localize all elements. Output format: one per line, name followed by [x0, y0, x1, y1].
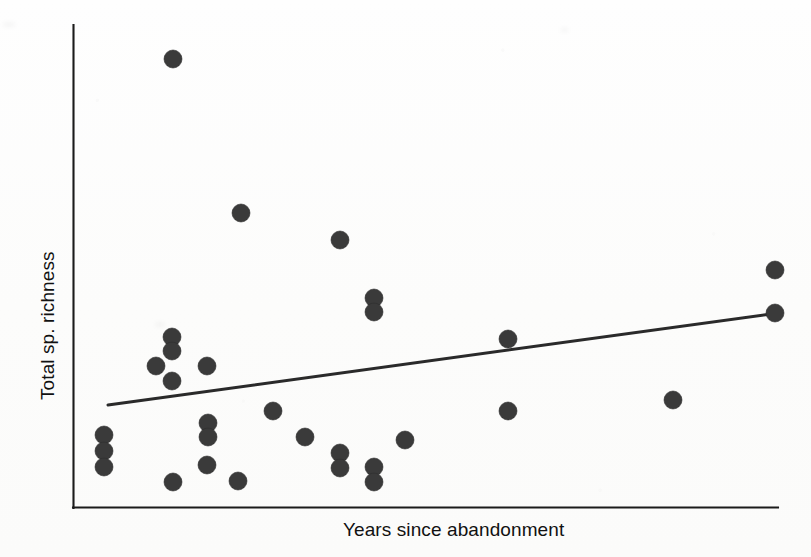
data-point [164, 50, 182, 68]
plot-canvas [0, 0, 811, 557]
data-point [396, 431, 414, 449]
data-point [331, 459, 349, 477]
data-point [365, 473, 383, 491]
x-axis-label: Years since abandonment [343, 519, 564, 541]
data-point [331, 231, 349, 249]
data-point [198, 456, 216, 474]
data-point [499, 330, 517, 348]
y-axis-label: Total sp. richness [37, 251, 59, 400]
data-point [296, 428, 314, 446]
data-point [164, 473, 182, 491]
data-point [664, 391, 682, 409]
data-point [766, 261, 784, 279]
data-point [499, 402, 517, 420]
data-point [163, 342, 181, 360]
data-point [163, 372, 181, 390]
data-point [229, 472, 247, 490]
scatter-plot-figure: Total sp. richness Years since abandonme… [0, 0, 811, 557]
data-point [95, 458, 113, 476]
data-point [95, 442, 113, 460]
data-point [766, 304, 784, 322]
data-point [198, 357, 216, 375]
data-point [232, 204, 250, 222]
data-point [365, 303, 383, 321]
data-point [95, 426, 113, 444]
data-point [264, 402, 282, 420]
data-point-group [95, 50, 784, 491]
data-point [199, 428, 217, 446]
data-point [147, 357, 165, 375]
